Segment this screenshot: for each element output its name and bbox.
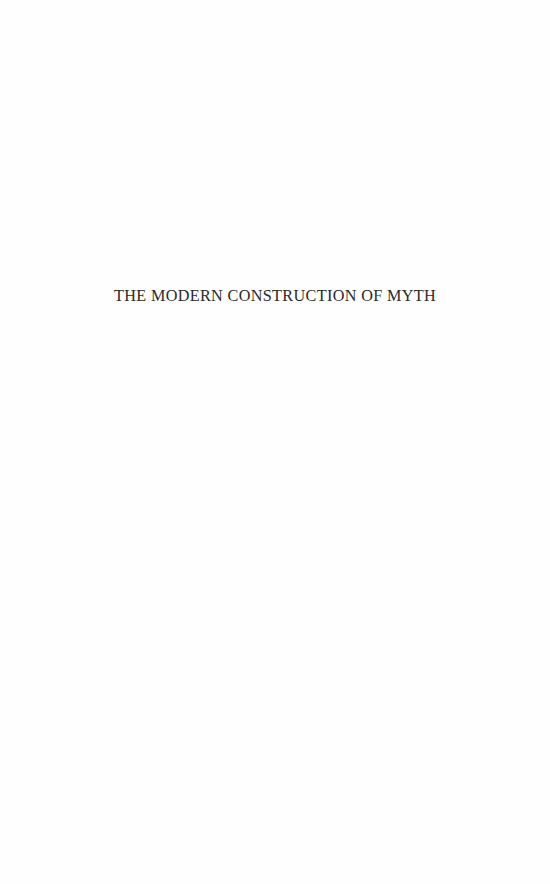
half-title: THE MODERN CONSTRUCTION OF MYTH <box>0 287 550 305</box>
book-page: THE MODERN CONSTRUCTION OF MYTH <box>0 0 550 884</box>
